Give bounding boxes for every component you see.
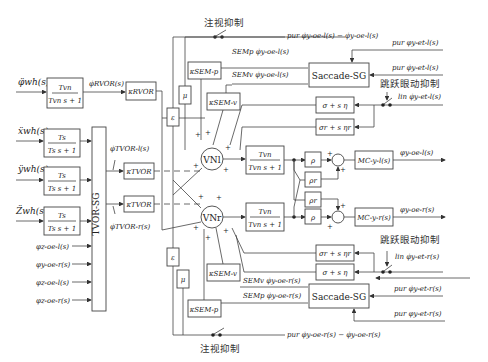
svg-text:κSEM-p: κSEM-p: [189, 68, 219, 76]
svg-text:+: +: [216, 194, 222, 202]
svg-text:κSEM-p: κSEM-p: [189, 306, 219, 314]
svg-text:σr + s ηr: σr + s ηr: [319, 124, 351, 132]
svg-text:pur φ̇y-et-l(s): pur φ̇y-et-l(s): [392, 64, 439, 72]
svg-text:Saccade-SG: Saccade-SG: [312, 71, 366, 81]
svg-text:+: +: [225, 144, 231, 152]
svg-text:σ + s η: σ + s η: [322, 269, 348, 277]
rho-network: ρ + + ρr ρr ρ + +: [284, 150, 346, 231]
svg-text:+: +: [205, 129, 211, 137]
svg-text:κRVOR: κRVOR: [127, 88, 154, 96]
svg-text:κTVOR: κTVOR: [125, 168, 152, 176]
svg-text:+: +: [193, 162, 199, 170]
rvor-output-label: φ̇RVOR(s): [89, 80, 124, 88]
svg-text:pur φy-et-l(s): pur φy-et-l(s): [392, 39, 439, 47]
svg-text:+: +: [340, 202, 346, 210]
error-bottom-label: pur φ̇y-oe-r(s) − φ̇y-oe-r(s): [287, 331, 381, 339]
rvor-input-label: φ̈wh(s): [18, 77, 50, 87]
svg-text:+: +: [198, 193, 204, 201]
svg-text:κTVOR: κTVOR: [125, 201, 152, 209]
svg-text:Ts: Ts: [58, 212, 66, 220]
eye-position-inputs: φz-oe-l(s) φy-oe-r(s) φz-oe-l(s) φz-oe-r…: [36, 243, 91, 305]
svg-text:φz-oe-r(s): φz-oe-r(s): [36, 297, 70, 305]
svg-text:Tvn: Tvn: [58, 84, 72, 92]
svg-text:σr + s ηr: σr + s ηr: [319, 250, 351, 258]
svg-text:ρ: ρ: [310, 157, 316, 165]
output-right-label: φy-oe-r(s): [400, 206, 435, 214]
svg-text:lin φ̇y-et-r(s): lin φ̇y-et-r(s): [395, 253, 439, 261]
otolith-z-branch: Z̈wh(s) Ts Ts s + 1: [15, 205, 91, 235]
vn-left-node: VNl + + + + +: [193, 129, 231, 174]
sem-v-right-label: SEMv φ̇y-oe-r(s): [243, 277, 301, 285]
svg-text:Z̈wh(s): Z̈wh(s): [15, 205, 48, 216]
vor-block-diagram: φ̈wh(s) Tvn Tvn s + 1 φ̇RVOR(s) κRVOR ẍw…: [0, 0, 488, 362]
svg-text:Ts: Ts: [58, 134, 66, 142]
svg-text:φy-oe-r(s): φy-oe-r(s): [36, 261, 71, 269]
svg-text:lin φ̇y-et-l(s): lin φ̇y-et-l(s): [398, 93, 441, 101]
svg-text:φ̇TVOR-r(s): φ̇TVOR-r(s): [110, 223, 151, 231]
motor-right: MC-y-r(s) φy-oe-r(s): [344, 206, 445, 226]
svg-text:注视抑制: 注视抑制: [200, 343, 240, 354]
sem-v-left-label: SEMv φ̇y-oe-l(s): [232, 71, 289, 79]
svg-text:Tvn s + 1: Tvn s + 1: [248, 164, 282, 172]
output-left-label: φy-oe-l(s): [400, 149, 434, 157]
k-sem-p-bottom: κSEM-p: [188, 229, 308, 317]
svg-text:+: +: [195, 131, 201, 139]
svg-text:+: +: [223, 227, 229, 235]
svg-text:+: +: [193, 224, 199, 232]
svg-text:MC-y-l(s): MC-y-l(s): [357, 157, 391, 165]
k-tvor-right: φ̇TVOR-r(s) κTVOR: [106, 196, 203, 231]
svg-text:Tvn: Tvn: [258, 151, 272, 159]
svg-text:ε: ε: [171, 254, 175, 262]
svg-text:MC-y-r(s): MC-y-r(s): [356, 214, 391, 222]
otolith-y-branch: ÿwh(s) Ts Ts s + 1: [16, 164, 91, 195]
svg-text:φz-oe-l(s): φz-oe-l(s): [36, 279, 69, 287]
svg-text:+: +: [340, 166, 346, 174]
vn-left-tf: Tvn Tvn s + 1: [223, 146, 284, 174]
svg-text:Ts s + 1: Ts s + 1: [48, 147, 76, 155]
svg-text:Ts: Ts: [58, 172, 66, 180]
svg-text:Saccade-SG: Saccade-SG: [312, 292, 366, 302]
vn-right-node: VNr + + + + +: [193, 193, 229, 242]
svg-text:ρr: ρr: [308, 177, 317, 185]
svg-text:Tvn: Tvn: [258, 208, 272, 216]
svg-text:Ts s + 1: Ts s + 1: [48, 225, 76, 233]
error-top-label: pur φ̇y-oe-l(s) − φ̇y-oe-l(s): [287, 32, 379, 40]
svg-text:+: +: [327, 223, 333, 231]
sem-p-left-label: SEMp φ̇y-oe-l(s): [232, 48, 289, 56]
svg-text:VNr: VNr: [202, 213, 222, 223]
svg-text:pur φy-et-r(s): pur φy-et-r(s): [394, 310, 442, 318]
svg-text:φ̇TVOR-l(s): φ̇TVOR-l(s): [110, 145, 149, 153]
svg-text:μ: μ: [183, 92, 188, 100]
svg-text:+: +: [327, 150, 333, 158]
vn-right-tf: Tvn Tvn s + 1: [223, 203, 284, 231]
k-sem-v-top: κSEM-v: [207, 85, 240, 145]
svg-text:VNl: VNl: [202, 155, 220, 165]
svg-text:TVOR-SG: TVOR-SG: [91, 193, 101, 236]
k-tvor-left: φ̇TVOR-l(s) κTVOR: [106, 145, 203, 179]
svg-text:μ: μ: [181, 276, 186, 284]
svg-text:+: +: [223, 166, 229, 174]
svg-text:ε: ε: [171, 114, 175, 122]
svg-text:ρ: ρ: [310, 214, 316, 222]
svg-text:κSEM-v: κSEM-v: [208, 270, 237, 278]
svg-text:σ + s η: σ + s η: [322, 102, 348, 110]
svg-text:κSEM-v: κSEM-v: [208, 99, 237, 107]
svg-text:pur φ̇y-et-r(s): pur φ̇y-et-r(s): [394, 285, 442, 293]
tvor-sg-block: TVOR-SG: [91, 127, 106, 311]
svg-text:+: +: [205, 234, 211, 242]
motor-left: MC-y-l(s) φy-oe-l(s): [344, 149, 445, 169]
sigma-eta-top: σ + s η σr + s ηr lin φ̇y-et-l(s): [230, 92, 443, 150]
svg-text:Ts s + 1: Ts s + 1: [48, 185, 76, 193]
saccade-sg-bottom: Saccade-SG pur φ̇y-et-r(s) pur φy-et-r(s…: [309, 284, 445, 321]
svg-text:Tvn s + 1: Tvn s + 1: [248, 221, 282, 229]
sem-p-right-label: SEMp φ̇y-oe-r(s): [243, 292, 301, 300]
svg-text:φz-oe-l(s): φz-oe-l(s): [36, 243, 69, 251]
otolith-x-branch: ẍwh(s) Ts Ts s + 1: [16, 126, 91, 157]
svg-text:ρr: ρr: [308, 197, 317, 205]
saccade-inhibit-bottom-label: 跳跃眼动抑制: [380, 234, 440, 245]
svg-text:注视抑制: 注视抑制: [204, 17, 244, 28]
saccade-inhibit-top-label: 跳跃眼动抑制: [380, 78, 440, 89]
svg-text:Tvn s + 1: Tvn s + 1: [48, 97, 82, 105]
